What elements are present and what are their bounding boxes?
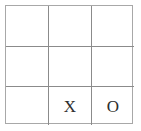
board-cell-r0c2[interactable] [91,6,134,46]
board-canvas: X O [0,0,141,131]
cell-mark-x: X [64,98,76,115]
tic-tac-toe-grid: X O [5,5,133,124]
board-cell-r2c0[interactable] [6,86,48,125]
board-cell-r1c0[interactable] [6,46,48,86]
board-cell-r0c0[interactable] [6,6,48,46]
cell-mark-o: O [107,98,119,115]
board-cell-r2c1[interactable]: X [48,86,91,125]
board-cell-r1c1[interactable] [48,46,91,86]
board-cell-r2c2[interactable]: O [91,86,134,125]
board-cell-r1c2[interactable] [91,46,134,86]
board-cell-r0c1[interactable] [48,6,91,46]
